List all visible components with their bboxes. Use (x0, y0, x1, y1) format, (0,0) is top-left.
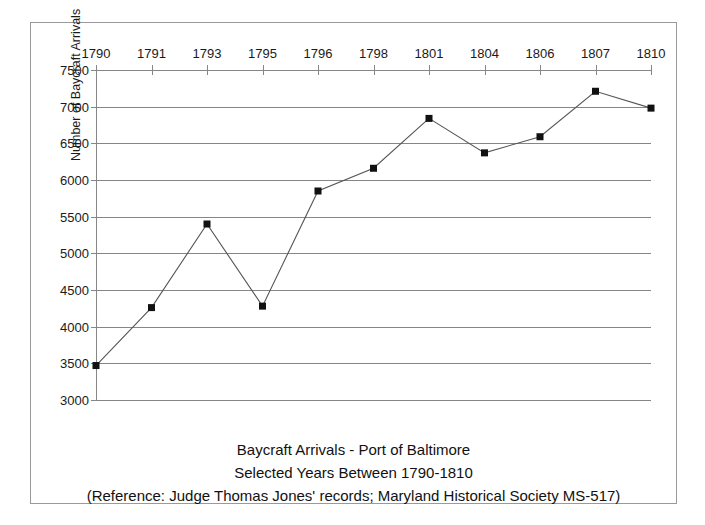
series-markers (93, 88, 655, 369)
x-tick-label: 1806 (526, 46, 555, 61)
x-tick-label: 1791 (137, 46, 166, 61)
y-tick-mark (91, 400, 96, 401)
x-tick-label: 1796 (304, 46, 333, 61)
y-tick-label: 5000 (60, 246, 89, 261)
x-tick-label: 1804 (470, 46, 499, 61)
x-tick-label: 1793 (193, 46, 222, 61)
chart-title-block: Baycraft Arrivals - Port of Baltimore Se… (31, 438, 676, 507)
data-point-marker (426, 115, 433, 122)
chart-page: Number of Baycraft Arrivals 750070006500… (0, 0, 705, 525)
x-tick-label: 1801 (415, 46, 444, 61)
y-tick-label: 7500 (60, 63, 89, 78)
data-point-marker (537, 133, 544, 140)
chart-subtitle: Selected Years Between 1790-1810 (31, 461, 676, 484)
x-tick-label: 1807 (581, 46, 610, 61)
data-point-marker (370, 165, 377, 172)
y-tick-label: 3000 (60, 393, 89, 408)
chart-title: Baycraft Arrivals - Port of Baltimore (31, 438, 676, 461)
x-tick-label: 1790 (82, 46, 111, 61)
y-tick-label: 5500 (60, 209, 89, 224)
data-point-marker (204, 221, 211, 228)
series-line (96, 91, 651, 365)
y-tick-label: 6500 (60, 136, 89, 151)
data-point-marker (148, 304, 155, 311)
y-tick-label: 6000 (60, 173, 89, 188)
y-tick-label: 4000 (60, 319, 89, 334)
x-tick-mark (651, 65, 652, 75)
y-tick-label: 4500 (60, 283, 89, 298)
gridline (96, 400, 651, 401)
x-tick-label: 1810 (637, 46, 666, 61)
x-tick-label: 1795 (248, 46, 277, 61)
chart-frame: Number of Baycraft Arrivals 750070006500… (30, 22, 677, 504)
chart-reference: (Reference: Judge Thomas Jones' records;… (31, 484, 676, 507)
data-point-marker (259, 303, 266, 310)
data-point-marker (315, 188, 322, 195)
data-point-marker (481, 149, 488, 156)
y-tick-label: 3500 (60, 356, 89, 371)
data-point-marker (93, 362, 100, 369)
data-point-marker (592, 88, 599, 95)
data-point-marker (648, 105, 655, 112)
x-tick-label: 1798 (359, 46, 388, 61)
plot-area: 7500700065006000550050004500400035003000… (96, 70, 651, 400)
data-series (96, 70, 651, 400)
y-tick-label: 7000 (60, 99, 89, 114)
